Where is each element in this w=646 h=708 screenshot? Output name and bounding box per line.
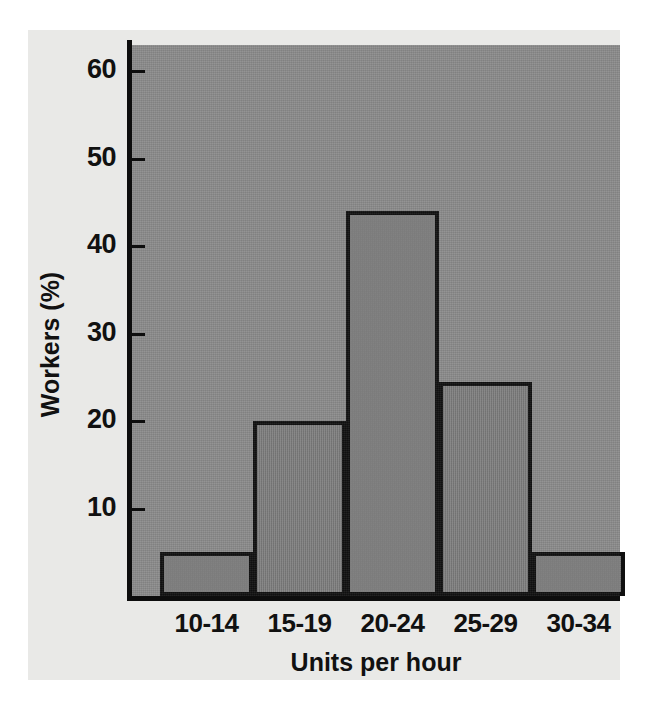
y-axis-line [127,40,132,601]
x-axis-title: Units per hour [132,648,620,677]
histogram-figure: 102030405060 Workers (%) 10-1415-1920-24… [0,0,646,708]
bar [160,552,253,596]
plot-panel [132,45,620,596]
x-axis-category-label: 30-34 [524,608,633,639]
y-axis-title: Workers (%) [36,235,65,455]
bar [439,382,532,596]
x-axis-line [127,596,620,601]
bar [532,552,625,596]
bars-layer [132,45,620,596]
bar [346,211,439,596]
bar [253,421,346,596]
